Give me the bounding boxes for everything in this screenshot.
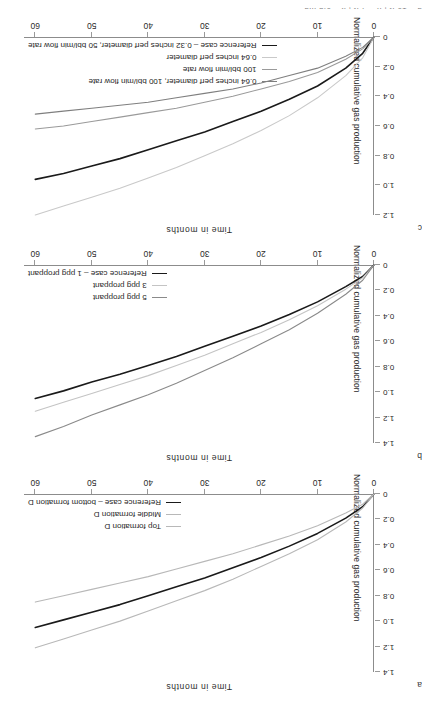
x-tick-label: 40 bbox=[143, 249, 152, 259]
legend-item: Reference case – 1 ppg proppant bbox=[28, 269, 167, 278]
x-tick-label: 0 bbox=[372, 21, 377, 31]
x-tick-label: 60 bbox=[31, 478, 40, 488]
legend-c: 0.64 inches perf diameter, 100 bbl/min f… bbox=[28, 41, 277, 86]
x-tick-label: 40 bbox=[143, 478, 152, 488]
y-tick-label: 1.0 bbox=[383, 617, 394, 626]
y-tick bbox=[375, 417, 380, 418]
legend-item: Top formation D bbox=[104, 522, 180, 531]
y-tick bbox=[375, 214, 380, 215]
y-tick bbox=[375, 289, 380, 290]
y-tick-label: 0 bbox=[383, 33, 387, 42]
legend-item: Reference case – bottom formation D bbox=[28, 498, 181, 507]
x-tick-label: 40 bbox=[143, 21, 152, 31]
legend-line-icon bbox=[152, 285, 167, 286]
legend-label: 0.64 inches perf diameter, 100 bbl/min f… bbox=[88, 77, 256, 86]
legend-item: 3 ppg proppant bbox=[93, 281, 167, 290]
y-tick-label: 0.6 bbox=[383, 122, 394, 131]
x-tick-label: 10 bbox=[313, 249, 322, 259]
legend-b: 5 ppg proppant3 ppg proppantReference ca… bbox=[28, 269, 167, 302]
chart-panel-c: c Time in months Normalized cumulative g… bbox=[0, 7, 428, 235]
plot-area-a: Normalized cumulative gas production 00.… bbox=[24, 494, 374, 672]
legend-label: 3 ppg proppant bbox=[93, 281, 147, 290]
legend-line-icon bbox=[166, 514, 181, 515]
y-tick-label: 0.8 bbox=[383, 591, 394, 600]
y-tick bbox=[375, 569, 380, 570]
y-tick bbox=[375, 544, 380, 545]
y-tick-label: 0.2 bbox=[383, 62, 394, 71]
x-tick-label: 60 bbox=[31, 249, 40, 259]
y-tick-label: 1.4 bbox=[383, 668, 394, 677]
figure-rotated-container: a Time in months Normalized cumulative g… bbox=[0, 0, 428, 701]
legend-label: Reference case – bottom formation D bbox=[28, 498, 161, 507]
y-tick-label: 1.2 bbox=[383, 642, 394, 651]
x-tick-label: 0 bbox=[372, 249, 377, 259]
y-tick bbox=[375, 518, 380, 519]
chart-panel-b: b Time in months Normalized cumulative g… bbox=[0, 235, 428, 463]
legend-line-icon bbox=[262, 69, 277, 70]
y-tick bbox=[375, 315, 380, 316]
x-axis-title: Time in months bbox=[24, 682, 374, 692]
x-tick-label: 30 bbox=[200, 478, 209, 488]
y-tick bbox=[375, 493, 380, 494]
y-tick bbox=[375, 95, 380, 96]
x-tick-label: 10 bbox=[313, 21, 322, 31]
y-tick bbox=[375, 366, 380, 367]
legend-item: Reference case – 0.32 inches perf diamet… bbox=[28, 41, 277, 50]
x-tick-label: 50 bbox=[87, 249, 96, 259]
x-tick-label: 30 bbox=[200, 249, 209, 259]
y-tick bbox=[375, 646, 380, 647]
x-tick-label: 50 bbox=[87, 478, 96, 488]
legend-line-icon bbox=[262, 57, 277, 58]
y-tick-label: 1.0 bbox=[383, 388, 394, 397]
y-tick bbox=[375, 391, 380, 392]
x-tick-label: 10 bbox=[313, 478, 322, 488]
legend-label: 100 bbl/min flow rate bbox=[183, 65, 257, 74]
y-tick-label: 1.4 bbox=[383, 439, 394, 448]
y-tick-label: 0.8 bbox=[383, 151, 394, 160]
y-tick bbox=[375, 340, 380, 341]
legend-item: 0.64 inches perf diameter, 100 bbl/min f… bbox=[88, 77, 276, 86]
legend-label: 0.64 inches perf diameter bbox=[166, 53, 256, 62]
y-tick-label: 0 bbox=[383, 261, 387, 270]
y-tick bbox=[375, 184, 380, 185]
x-axis-title: Time in months bbox=[24, 453, 374, 463]
y-tick-label: 1.0 bbox=[383, 181, 394, 190]
y-tick-label: 0.4 bbox=[383, 311, 394, 320]
y-tick-label: 0.6 bbox=[383, 337, 394, 346]
x-tick-label: 20 bbox=[256, 249, 265, 259]
y-tick bbox=[375, 442, 380, 443]
y-tick-label: 0 bbox=[383, 490, 387, 499]
y-tick bbox=[375, 36, 380, 37]
clipped-caption-text: d = 10 ft ; h = 4 ft ; k = 0.3 md bbox=[304, 6, 422, 9]
y-tick-label: 0.2 bbox=[383, 286, 394, 295]
plot-area-c: Normalized cumulative gas production 00.… bbox=[24, 37, 374, 215]
legend-label: Reference case – 1 ppg proppant bbox=[28, 269, 147, 278]
y-tick-label: 1.2 bbox=[383, 413, 394, 422]
y-tick-label: 0.8 bbox=[383, 362, 394, 371]
x-tick-label: 0 bbox=[372, 478, 377, 488]
legend-label: Top formation D bbox=[104, 522, 160, 531]
plot-area-b: Normalized cumulative gas production 00.… bbox=[24, 265, 374, 443]
legend-item: 100 bbl/min flow rate bbox=[183, 65, 277, 74]
legend-line-icon bbox=[152, 297, 167, 298]
panel-letter-c: c bbox=[418, 223, 422, 233]
y-tick-label: 0.2 bbox=[383, 515, 394, 524]
x-tick-label: 20 bbox=[256, 478, 265, 488]
x-axis-title: Time in months bbox=[24, 225, 374, 235]
chart-panel-a: a Time in months Normalized cumulative g… bbox=[0, 464, 428, 692]
legend-item: 0.64 inches perf diameter bbox=[166, 53, 276, 62]
legend-label: Middle formation D bbox=[94, 510, 161, 519]
legend-line-icon bbox=[166, 526, 181, 527]
legend-label: Reference case – 0.32 inches perf diamet… bbox=[28, 41, 257, 50]
y-tick bbox=[375, 125, 380, 126]
clipped-caption-strip: d = 10 ft ; h = 4 ft ; k = 0.3 md bbox=[0, 0, 428, 9]
y-tick bbox=[375, 620, 380, 621]
x-tick-label: 20 bbox=[256, 21, 265, 31]
y-tick-label: 0.6 bbox=[383, 566, 394, 575]
legend-label: 5 ppg proppant bbox=[93, 293, 147, 302]
legend-line-icon bbox=[166, 502, 181, 503]
x-tick-label: 50 bbox=[87, 21, 96, 31]
y-tick-label: 0.4 bbox=[383, 92, 394, 101]
x-tick-label: 60 bbox=[31, 21, 40, 31]
legend-item: 5 ppg proppant bbox=[93, 293, 167, 302]
